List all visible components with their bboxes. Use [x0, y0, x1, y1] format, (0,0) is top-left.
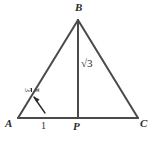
fraction-pi-3: π 3	[22, 88, 41, 92]
angle-arc-icon	[34, 97, 45, 113]
vertex-label-a: A	[5, 118, 12, 129]
triangle-diagram-svg	[0, 0, 161, 141]
base-length-label: 1	[41, 121, 46, 131]
fraction-denominator: 3	[22, 88, 30, 92]
geometry-figure: B A P C 1 √3 π 3	[0, 0, 161, 141]
altitude-length-label: √3	[81, 58, 93, 69]
triangle-side-ab	[18, 20, 78, 118]
triangle-side-bc	[78, 20, 138, 118]
fraction-numerator: π	[33, 88, 41, 92]
vertex-label-c: C	[140, 118, 147, 129]
vertex-label-p: P	[73, 121, 80, 132]
vertex-label-b: B	[75, 2, 82, 13]
angle-label-pi-over-3: π 3	[22, 88, 41, 92]
